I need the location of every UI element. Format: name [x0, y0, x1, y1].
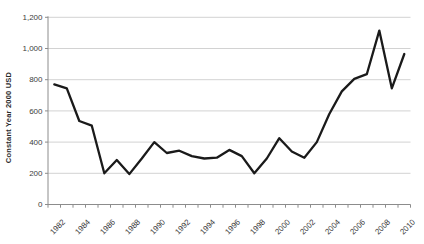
plot-svg: 02004006008001,0001,20019821984198619881… [0, 0, 424, 244]
y-tick-label: 0 [38, 200, 43, 209]
x-tick-label: 2004 [323, 217, 342, 236]
y-tick-label: 800 [29, 75, 43, 84]
x-tick-label: 2000 [273, 217, 292, 236]
x-tick-label: 2008 [373, 217, 392, 236]
line-chart: 02004006008001,0001,20019821984198619881… [0, 0, 424, 244]
x-tick-label: 1994 [198, 217, 217, 236]
x-tick-label: 1998 [248, 217, 267, 236]
x-tick-label: 1992 [173, 217, 192, 236]
y-tick-label: 1,200 [22, 13, 43, 22]
y-axis-title: Constant Year 2000 USD [4, 57, 15, 179]
x-tick-label: 1996 [223, 217, 242, 236]
x-tick-label: 1982 [48, 217, 67, 236]
x-tick-label: 2006 [348, 217, 367, 236]
y-tick-label: 1,000 [22, 44, 43, 53]
y-tick-label: 400 [29, 138, 43, 147]
y-tick-label: 600 [29, 107, 43, 116]
y-tick-label: 200 [29, 169, 43, 178]
x-tick-label: 1988 [123, 217, 142, 236]
x-tick-label: 1990 [148, 217, 167, 236]
x-tick-label: 2002 [298, 217, 317, 236]
x-tick-label: 1984 [73, 217, 92, 236]
data-series-line [54, 31, 404, 175]
x-tick-label: 2010 [398, 217, 417, 236]
x-tick-label: 1986 [98, 217, 117, 236]
